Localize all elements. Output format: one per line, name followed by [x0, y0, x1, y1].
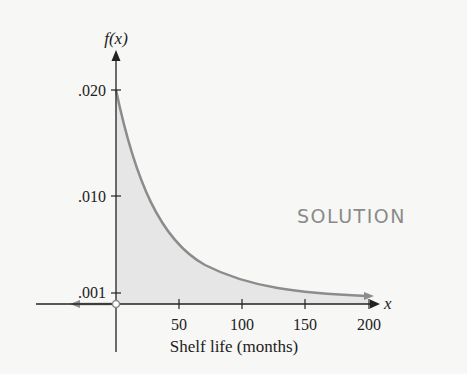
y-axis-label: f(x) — [104, 29, 128, 48]
x-tick-label: 50 — [171, 316, 187, 333]
y-tick-label: .010 — [78, 188, 106, 205]
y-axis-arrow-icon — [112, 50, 121, 61]
x-tick-label: 200 — [357, 316, 381, 333]
x-tick-label: 100 — [230, 316, 254, 333]
x-axis-symbol: x — [383, 294, 392, 313]
y-tick-label: .020 — [78, 82, 106, 99]
y-tick-label: .001 — [78, 284, 106, 301]
x-axis-arrow-icon — [370, 300, 380, 309]
curve-arrow-icon — [364, 292, 374, 300]
open-circle-icon — [113, 301, 120, 308]
x-axis-label: Shelf life (months) — [170, 337, 298, 356]
x-tick-label: 150 — [293, 316, 317, 333]
solution-heading: SOLUTION — [297, 205, 406, 227]
chart: 50 100 150 200 .020 .010 .001 Shelf life… — [0, 0, 467, 374]
shaded-area — [116, 90, 368, 304]
